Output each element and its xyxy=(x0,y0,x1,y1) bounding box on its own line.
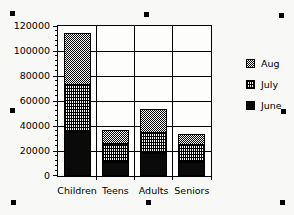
bar-children[interactable] xyxy=(64,33,91,176)
x-axis-tick xyxy=(134,177,135,180)
y-axis-label: 0 xyxy=(0,170,50,181)
y-axis-major-tick xyxy=(53,126,57,127)
y-axis-label: 60000 xyxy=(0,95,50,106)
y-axis-major-tick xyxy=(53,76,57,77)
selection-handle-bottom-left[interactable] xyxy=(11,200,16,205)
gridline-vertical xyxy=(96,26,97,176)
legend-swatch-aug xyxy=(246,59,255,68)
legend-label: June xyxy=(261,100,282,111)
y-axis-minor-tick xyxy=(55,170,57,171)
y-axis-minor-tick xyxy=(55,105,57,106)
legend-item-aug: Aug xyxy=(246,58,280,69)
bar-segment-july[interactable] xyxy=(140,133,167,153)
legend-item-june: June xyxy=(246,100,282,111)
legend-label: July xyxy=(261,79,278,90)
y-axis-minor-tick xyxy=(55,70,57,71)
bar-segment-july[interactable] xyxy=(64,85,91,132)
y-axis-minor-tick xyxy=(55,155,57,156)
bar-segment-july[interactable] xyxy=(102,144,129,162)
y-axis-minor-tick xyxy=(55,90,57,91)
legend-item-july: July xyxy=(246,79,278,90)
selection-handle-bottom-right[interactable] xyxy=(280,200,285,205)
legend-label: Aug xyxy=(261,58,280,69)
y-axis-minor-tick xyxy=(55,165,57,166)
selection-handle-bottom-center[interactable] xyxy=(146,200,151,205)
y-axis-minor-tick xyxy=(55,45,57,46)
y-axis-minor-tick xyxy=(55,110,57,111)
y-axis-major-tick xyxy=(53,101,57,102)
bar-segment-june[interactable] xyxy=(140,153,167,176)
y-axis-minor-tick xyxy=(55,95,57,96)
bar-seniors[interactable] xyxy=(178,134,205,177)
bar-segment-june[interactable] xyxy=(102,162,129,176)
selection-handle-middle-left[interactable] xyxy=(10,108,15,113)
y-axis-minor-tick xyxy=(55,60,57,61)
y-axis-minor-tick xyxy=(55,85,57,86)
y-axis-minor-tick xyxy=(55,140,57,141)
y-axis-label: 100000 xyxy=(0,45,50,56)
y-axis-minor-tick xyxy=(55,55,57,56)
y-axis-major-tick xyxy=(53,151,57,152)
bar-segment-july[interactable] xyxy=(178,145,205,163)
bar-segment-june[interactable] xyxy=(178,162,205,176)
x-axis-label: Seniors xyxy=(152,185,232,196)
y-axis-minor-tick xyxy=(55,120,57,121)
selection-handle-top-right[interactable] xyxy=(279,13,284,18)
y-axis-minor-tick xyxy=(55,135,57,136)
x-axis-tick xyxy=(96,177,97,180)
bar-teens[interactable] xyxy=(102,130,129,176)
bar-segment-aug[interactable] xyxy=(102,130,129,144)
y-axis-label: 80000 xyxy=(0,70,50,81)
y-axis-minor-tick xyxy=(55,35,57,36)
y-axis-minor-tick xyxy=(55,115,57,116)
bar-adults[interactable] xyxy=(140,109,167,176)
y-axis-minor-tick xyxy=(55,130,57,131)
legend-swatch-june xyxy=(246,101,255,110)
selection-handle-top-center[interactable] xyxy=(144,12,149,17)
bar-segment-aug[interactable] xyxy=(140,109,167,133)
selection-handle-top-left[interactable] xyxy=(10,11,15,16)
drawing-canvas: 020000400006000080000100000120000 Childr… xyxy=(0,0,294,215)
plot-area xyxy=(57,25,212,177)
bar-segment-june[interactable] xyxy=(64,132,91,176)
y-axis-minor-tick xyxy=(55,30,57,31)
y-axis-minor-tick xyxy=(55,160,57,161)
y-axis-minor-tick xyxy=(55,145,57,146)
chart-object[interactable]: 020000400006000080000100000120000 Childr… xyxy=(0,0,294,215)
x-axis-tick xyxy=(211,177,212,180)
y-axis-label: 40000 xyxy=(0,120,50,131)
selection-handle-middle-right[interactable] xyxy=(281,109,286,114)
bar-segment-aug[interactable] xyxy=(178,134,205,145)
y-axis-label: 120000 xyxy=(0,20,50,31)
legend-swatch-july xyxy=(246,80,255,89)
y-axis-major-tick xyxy=(53,26,57,27)
gridline-vertical xyxy=(172,26,173,176)
y-axis-minor-tick xyxy=(55,65,57,66)
y-axis-minor-tick xyxy=(55,80,57,81)
y-axis-major-tick xyxy=(53,175,57,176)
y-axis-minor-tick xyxy=(55,40,57,41)
y-axis-label: 20000 xyxy=(0,145,50,156)
gridline-vertical xyxy=(134,26,135,176)
bar-segment-aug[interactable] xyxy=(64,33,91,86)
y-axis-major-tick xyxy=(53,51,57,52)
x-axis-tick xyxy=(172,177,173,180)
